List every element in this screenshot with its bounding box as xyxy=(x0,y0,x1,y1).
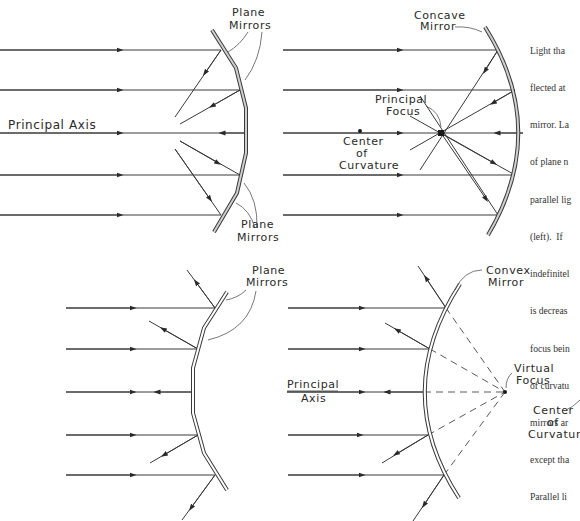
reflected-rays xyxy=(382,266,446,521)
incident-rays xyxy=(283,50,523,215)
label-plane-bottom: Plane xyxy=(241,218,274,231)
concave-mirror xyxy=(485,27,518,235)
leader-line xyxy=(506,373,512,388)
caption-line: (left). If xyxy=(530,231,580,243)
panel-plane-mirrors-diverging: Plane Mirrors xyxy=(66,264,288,520)
incident-rays xyxy=(0,50,246,215)
virtual-focus-point xyxy=(503,390,507,394)
caption-line: mirror. La xyxy=(530,119,580,131)
caption-line: is decreas xyxy=(530,305,580,317)
caption-line: of curvatu xyxy=(530,380,580,392)
caption-line: indefinitel xyxy=(530,268,580,280)
leader-line xyxy=(455,27,482,32)
plane-mirror-array xyxy=(212,30,246,232)
leader-line xyxy=(226,290,246,300)
caption-line: of plane n xyxy=(530,156,580,168)
caption-line: except tha xyxy=(530,454,580,466)
leader-line xyxy=(245,32,262,80)
plane-mirror-array xyxy=(193,292,227,490)
label-principal: Principal xyxy=(287,378,339,391)
caption-line: parallel lig xyxy=(530,194,580,206)
label-plane-top: Plane xyxy=(232,6,265,19)
label-focus: Focus xyxy=(386,105,420,118)
caption-line: focus bein xyxy=(530,343,580,355)
caption-line: Light tha xyxy=(530,45,580,57)
label-mirrors: Mirrors xyxy=(246,276,288,289)
mirror-reflection-figure: Plane Mirrors Principal Axis Plane Mirro… xyxy=(0,0,580,521)
panel-plane-mirrors-converging: Plane Mirrors Principal Axis Plane Mirro… xyxy=(0,6,279,244)
panel-concave-mirror: Concave Mirror Principal Focus Center of… xyxy=(283,9,523,235)
caption-line: mirrors ar xyxy=(530,417,580,429)
label-mirror: Mirror xyxy=(488,276,524,289)
label-mirrors-top: Mirrors xyxy=(229,19,271,32)
label-mirror: Mirror xyxy=(420,20,456,33)
leader-line xyxy=(228,32,248,52)
label-mirrors-bottom: Mirrors xyxy=(237,231,279,244)
label-principal-axis: Principal Axis xyxy=(8,118,96,132)
caption-line: Parallel li xyxy=(530,491,580,503)
label-curvature: Curvature xyxy=(339,159,399,172)
convex-mirror xyxy=(425,284,460,498)
figure-caption: Light tha flected at mirror. La of plane… xyxy=(530,20,580,521)
label-axis: Axis xyxy=(301,392,326,405)
principal-focus-point xyxy=(438,130,444,136)
center-of-curvature-point xyxy=(358,129,362,133)
caption-line: flected at xyxy=(530,82,580,94)
